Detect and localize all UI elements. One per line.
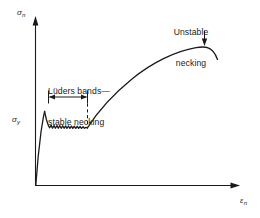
luders-annotation-line-2: stable necking xyxy=(48,117,110,127)
y-axis-arrowhead xyxy=(33,16,39,26)
unstable-necking-annotation: Unstable necking xyxy=(155,7,227,88)
x-axis-label: εn xyxy=(240,196,247,205)
luders-annotation-line-1: Lüders bands— xyxy=(48,86,110,96)
luders-bands-annotation: Lüders bands— stable necking xyxy=(48,66,110,147)
x-axis xyxy=(36,183,241,189)
y-axis-subscript: n xyxy=(22,12,25,18)
x-axis-arrowhead xyxy=(231,183,241,189)
curve-elastic-region xyxy=(36,112,45,186)
x-axis-subscript: n xyxy=(244,200,247,206)
y-axis-label: σn xyxy=(17,8,25,17)
necking-annotation-line-1: Unstable xyxy=(155,27,227,37)
yield-stress-subscript: y xyxy=(17,119,20,125)
yield-stress-label: σy xyxy=(12,115,20,124)
stress-strain-figure: σn εn σy Lüders bands— stable necking Un… xyxy=(0,0,260,218)
necking-annotation-line-2: necking xyxy=(155,58,227,68)
